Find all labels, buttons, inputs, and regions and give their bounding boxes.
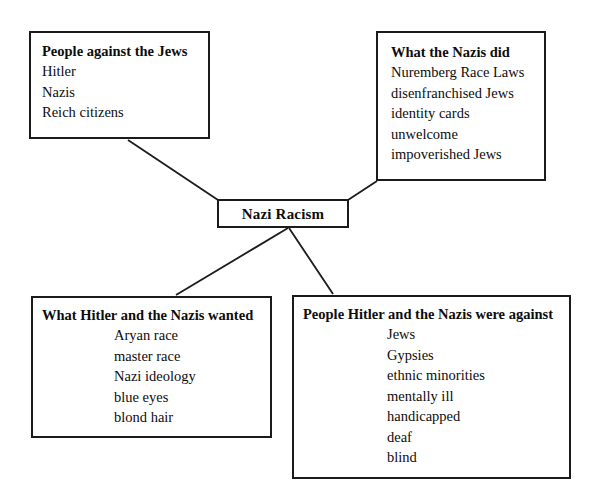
node-item: Nazis	[42, 82, 208, 103]
node-item: Nazi ideology	[42, 366, 270, 387]
node-item: unwelcome	[391, 124, 544, 145]
connector-center-to-hitler-wanted	[176, 228, 288, 295]
node-title: What Hitler and the Nazis wanted	[42, 305, 270, 325]
node-title: What the Nazis did	[391, 42, 544, 62]
connector-center-to-people-against	[128, 140, 218, 200]
node-item: master race	[42, 346, 270, 367]
node-item: Nuremberg Race Laws	[391, 62, 544, 83]
node-item: deaf	[303, 427, 569, 448]
node-item: Aryan race	[42, 325, 270, 346]
node-people-against-the-jews[interactable]: People against the Jews Hitler Nazis Rei…	[29, 31, 210, 139]
node-item: disenfranchised Jews	[391, 83, 544, 104]
node-item: Reich citizens	[42, 102, 208, 123]
node-item: blond hair	[42, 407, 270, 428]
connector-center-to-what-nazis-did	[348, 181, 377, 200]
node-item: blue eyes	[42, 387, 270, 408]
node-title: People Hitler and the Nazis were against	[303, 304, 569, 324]
node-center-nazi-racism[interactable]: Nazi Racism	[217, 199, 349, 228]
node-item: impoverished Jews	[391, 144, 544, 165]
node-what-hitler-and-the-nazis-wanted[interactable]: What Hitler and the Nazis wanted Aryan r…	[31, 296, 272, 438]
node-item: handicapped	[303, 406, 569, 427]
node-item: Gypsies	[303, 345, 569, 366]
node-item: Jews	[303, 324, 569, 345]
node-what-the-nazis-did[interactable]: What the Nazis did Nuremberg Race Laws d…	[376, 31, 546, 181]
node-item: blind	[303, 447, 569, 468]
node-title: People against the Jews	[42, 41, 208, 61]
node-item: ethnic minorities	[303, 365, 569, 386]
connector-center-to-people-against-list	[289, 228, 333, 294]
diagram-canvas: People against the Jews Hitler Nazis Rei…	[0, 0, 590, 494]
node-people-hitler-and-the-nazis-were-against[interactable]: People Hitler and the Nazis were against…	[292, 295, 571, 479]
node-item: Hitler	[42, 61, 208, 82]
node-item: mentally ill	[303, 386, 569, 407]
center-node-title: Nazi Racism	[242, 204, 325, 224]
node-item: identity cards	[391, 103, 544, 124]
